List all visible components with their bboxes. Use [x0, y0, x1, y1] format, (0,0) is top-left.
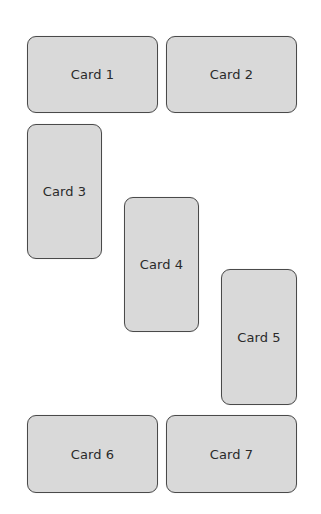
card-label: Card 5: [237, 330, 280, 345]
card-label: Card 4: [140, 257, 183, 272]
card-label: Card 1: [71, 67, 114, 82]
card-6: Card 6: [27, 415, 158, 493]
card-1: Card 1: [27, 36, 158, 113]
card-label: Card 2: [210, 67, 253, 82]
card-3: Card 3: [27, 124, 102, 259]
card-label: Card 6: [71, 447, 114, 462]
card-5: Card 5: [221, 269, 297, 405]
card-label: Card 3: [43, 184, 86, 199]
card-4: Card 4: [124, 197, 199, 332]
card-7: Card 7: [166, 415, 297, 493]
card-2: Card 2: [166, 36, 297, 113]
card-label: Card 7: [210, 447, 253, 462]
